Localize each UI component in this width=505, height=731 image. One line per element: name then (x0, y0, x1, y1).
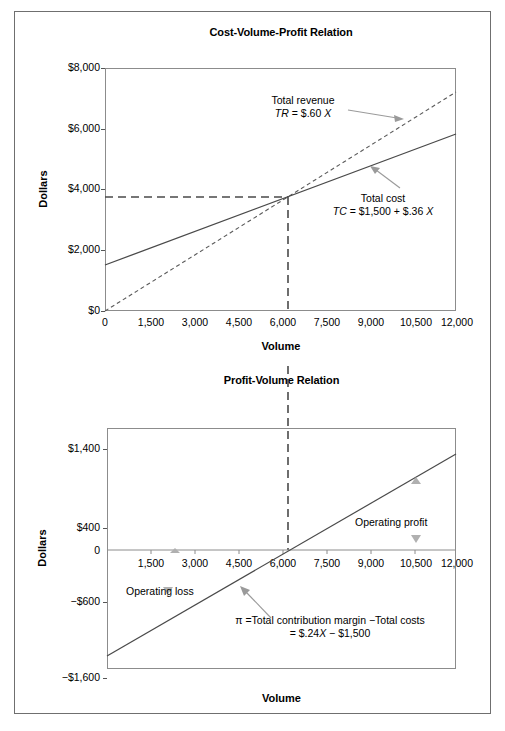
pi-symbol-icon: π (235, 614, 242, 626)
bottom-chart-operating-loss-annotation: Operating loss (126, 585, 194, 598)
bottom-chart-profit-formula-text: =Total contribution margin −Total costs (243, 614, 425, 626)
bottom-chart-profit-formula-constant: − $1,500 (326, 627, 370, 639)
bottom-chart-profit-formula-annotation: π =Total contribution margin −Total cost… (215, 614, 445, 640)
bottom-chart-profit-formula-line1: π =Total contribution margin −Total cost… (215, 614, 445, 627)
cvp-figure: Cost-Volume-Profit Relation Dollars Volu… (0, 0, 505, 731)
bottom-chart-operating-profit-down-caret (411, 535, 421, 543)
bottom-chart-profit-formula-line2: = $.24X − $1,500 (215, 627, 445, 640)
bottom-chart-profit-formula-coefficient: = $.24 (290, 627, 320, 639)
bottom-chart-operating-profit-up-caret (411, 477, 421, 484)
bottom-chart-operating-profit-annotation: Operating profit (355, 516, 427, 529)
